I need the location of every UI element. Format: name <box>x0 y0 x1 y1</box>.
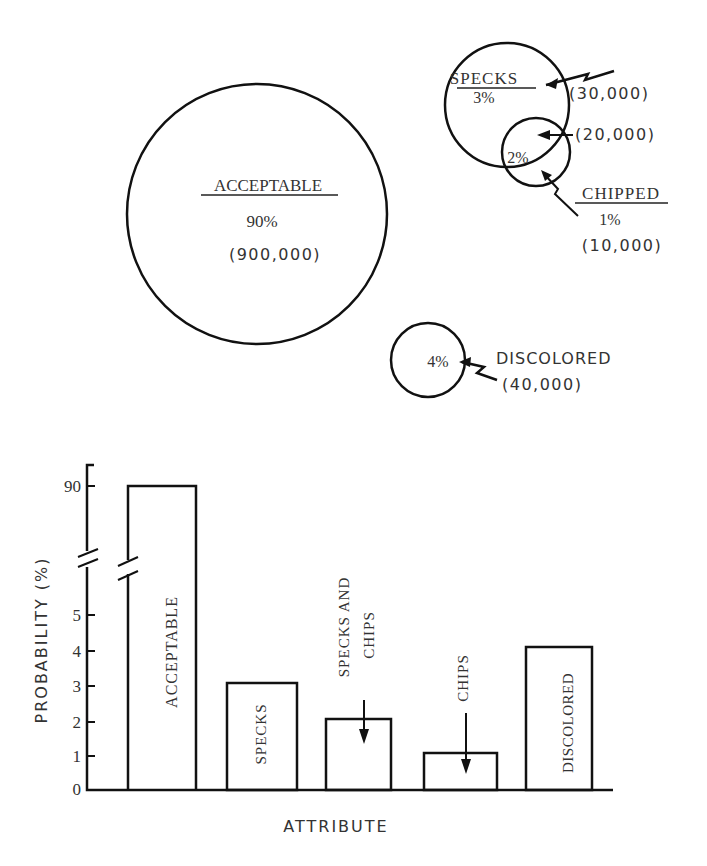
discolored-label: DISCOLORED <box>496 349 611 368</box>
chipped-label: CHIPPED <box>582 184 660 203</box>
tick-90: 90 <box>64 477 81 496</box>
chips-arrowhead-icon <box>461 759 471 774</box>
acceptable-count: (900,000) <box>229 245 321 264</box>
bar-chips <box>424 753 497 790</box>
y-tick-labels: 90 5 4 3 2 1 0 <box>64 477 82 799</box>
bar-label-specks-and-chips-1: SPECKS AND <box>336 577 352 677</box>
bar-specks-and-chips <box>326 719 391 790</box>
bar-acceptable <box>128 486 196 790</box>
chipped-arrow-icon <box>544 174 578 216</box>
tick-1: 1 <box>73 747 82 766</box>
chipped-pct: 1% <box>599 211 620 228</box>
tick-0: 0 <box>73 780 82 799</box>
bar-discolored <box>526 647 592 790</box>
chipped-count: (10,000) <box>582 236 662 255</box>
overlap-arrowhead-icon <box>537 130 550 140</box>
x-axis-label: ATTRIBUTE <box>283 817 388 836</box>
specks-count: (30,000) <box>569 84 649 103</box>
tick-5: 5 <box>73 606 82 625</box>
overlap-count: (20,000) <box>575 125 655 144</box>
bar-label-specks-and-chips-2: CHIPS <box>361 611 377 659</box>
y-axis-label: PROBABILITY (%) <box>32 557 51 724</box>
tick-4: 4 <box>73 642 82 661</box>
discolored-count: (40,000) <box>502 375 582 394</box>
tick-3: 3 <box>73 677 82 696</box>
acceptable-pct: 90% <box>246 212 277 231</box>
venn-diagram: ACCEPTABLE 90% (900,000) SPECKS 3% (30,0… <box>127 43 668 397</box>
overlap-pct: 2% <box>507 149 528 166</box>
bar-label-discolored: DISCOLORED <box>560 673 576 773</box>
y-axis-upper <box>87 465 94 551</box>
tick-2: 2 <box>73 713 82 732</box>
specks-chips-arrowhead-icon <box>359 729 369 744</box>
bar-label-specks: SPECKS <box>253 703 269 764</box>
specks-label: SPECKS <box>450 69 518 88</box>
bar-label-acceptable: ACCEPTABLE <box>163 596 180 708</box>
bar-chart: 90 5 4 3 2 1 0 PROBABILITY (%) ACCEPTABL… <box>32 465 613 836</box>
bar-label-chips: CHIPS <box>455 654 471 702</box>
discolored-pct: 4% <box>427 353 448 370</box>
specks-pct: 3% <box>473 89 494 106</box>
acceptable-label: ACCEPTABLE <box>214 176 322 195</box>
figure: ACCEPTABLE 90% (900,000) SPECKS 3% (30,0… <box>0 0 707 866</box>
y-axis-break-icon-2 <box>78 559 98 567</box>
